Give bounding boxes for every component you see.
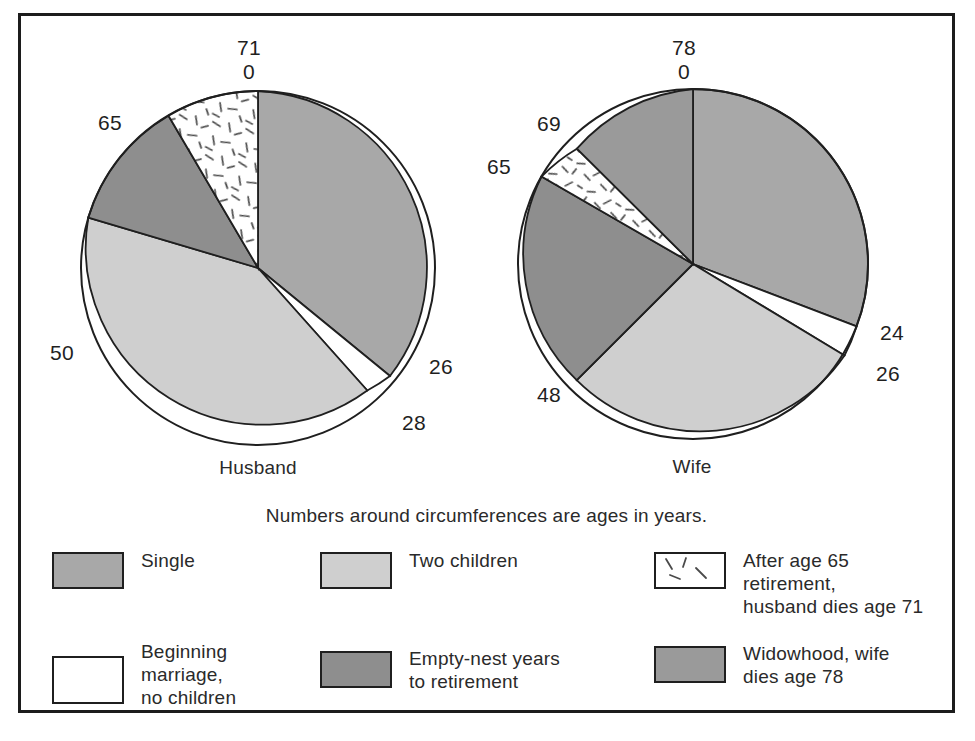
age-label-husband-71: 71 bbox=[237, 36, 261, 60]
age-label-husband-0: 0 bbox=[243, 60, 255, 84]
legend-row-2: Beginning marriage, no children Empty-ne… bbox=[52, 640, 932, 709]
legend-item-empty-nest[interactable]: Empty-nest years to retirement bbox=[320, 640, 654, 693]
legend-label-retirement: After age 65 retirement, husband dies ag… bbox=[743, 548, 932, 618]
legend-row-1: Single Two children bbox=[52, 548, 932, 618]
legend: Single Two children bbox=[52, 548, 932, 709]
legend-swatch-empty-nest-icon bbox=[320, 651, 392, 688]
legend-item-two-children[interactable]: Two children bbox=[320, 548, 654, 589]
legend-item-retirement[interactable]: After age 65 retirement, husband dies ag… bbox=[654, 548, 932, 618]
legend-label-empty-nest: Empty-nest years to retirement bbox=[409, 640, 560, 693]
legend-label-beginning-marriage: Beginning marriage, no children bbox=[141, 640, 236, 709]
pie-chart-wife bbox=[515, 86, 871, 442]
pie-chart-husband bbox=[78, 88, 438, 448]
age-label-wife-0: 0 bbox=[678, 60, 690, 84]
pie-husband-caption: Husband bbox=[158, 457, 358, 479]
pie-wife-svg bbox=[515, 86, 871, 442]
age-label-wife-24: 24 bbox=[880, 321, 904, 345]
chart-note: Numbers around circumferences are ages i… bbox=[18, 505, 955, 527]
legend-label-two-children: Two children bbox=[409, 548, 518, 572]
age-label-wife-26: 26 bbox=[876, 362, 900, 386]
legend-swatch-single-icon bbox=[52, 552, 124, 589]
pie-wife-caption: Wife bbox=[592, 456, 792, 478]
figure-root: 71 0 65 50 28 26 Husband bbox=[0, 0, 975, 741]
age-label-husband-65: 65 bbox=[98, 111, 122, 135]
age-label-husband-28: 28 bbox=[402, 411, 426, 435]
legend-label-widowhood: Widowhood, wife dies age 78 bbox=[743, 640, 890, 688]
age-label-husband-50: 50 bbox=[50, 341, 74, 365]
legend-item-widowhood[interactable]: Widowhood, wife dies age 78 bbox=[654, 640, 932, 688]
age-label-wife-78: 78 bbox=[672, 36, 696, 60]
age-label-wife-65: 65 bbox=[487, 155, 511, 179]
legend-item-single[interactable]: Single bbox=[52, 548, 320, 589]
legend-swatch-retirement-icon bbox=[654, 552, 726, 589]
age-label-wife-69: 69 bbox=[537, 112, 561, 136]
pie-husband-svg bbox=[78, 88, 438, 448]
legend-swatch-beginning-marriage-icon bbox=[52, 656, 124, 704]
legend-swatch-widowhood-icon bbox=[654, 646, 726, 683]
legend-label-single: Single bbox=[141, 548, 195, 572]
legend-item-beginning-marriage[interactable]: Beginning marriage, no children bbox=[52, 640, 320, 709]
age-label-wife-48: 48 bbox=[537, 383, 561, 407]
legend-swatch-two-children-icon bbox=[320, 552, 392, 589]
age-label-husband-26: 26 bbox=[429, 355, 453, 379]
